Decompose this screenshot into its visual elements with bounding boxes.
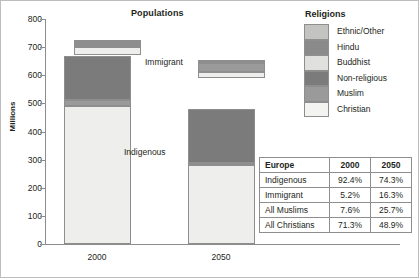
legend-swatch-icon [304,102,329,118]
table-row: Indigenous92.4%74.3% [260,173,412,188]
y-tick-label: 200 [16,184,42,192]
legend-swatch-icon [304,86,329,102]
legend-item-label: Non-religious [337,73,387,83]
legend-swatch-icon [304,24,329,40]
y-tick-label: 100 [16,212,42,220]
legend-swatch-icon [304,71,329,87]
bar-segment-buddhist [74,45,141,47]
bar-segment-non-religious [64,56,131,100]
table-cell-label: All Muslims [260,203,330,218]
y-tick-mark [40,188,45,189]
y-tick-label: 300 [16,156,42,164]
legend-items: Ethnic/OtherHinduBuddhistNon-religiousMu… [304,24,346,117]
bar-segment-non-religious [188,109,255,163]
x-tick-label: 2050 [191,252,251,262]
legend-item-muslim[interactable]: Muslim [304,86,346,102]
legend-item-ethnic-other[interactable]: Ethnic/Other [304,24,346,40]
bar-segment-ethnic-other [74,40,141,42]
page-title: Populations [131,8,184,18]
y-tick-mark [40,132,45,133]
annotation-indigenous: Indigenous [124,147,166,157]
bar-segment-muslim [188,163,255,165]
table-cell-2000: 5.2% [330,188,371,203]
y-tick-mark [40,244,45,245]
table-header-2050: 2050 [371,158,412,173]
table-row: All Muslims7.6%25.7% [260,203,412,218]
legend-item-label: Hindu [337,42,359,52]
y-tick-label: 600 [16,71,42,79]
table-cell-2050: 25.7% [371,203,412,218]
table-cell-label: Immigrant [260,188,330,203]
y-tick-mark [40,47,45,48]
table-cell-2000: 71.3% [330,218,371,233]
bar-segment-christian [198,72,265,78]
y-tick-mark [40,216,45,217]
y-tick-label: 800 [16,15,42,23]
legend-item-hindu[interactable]: Hindu [304,40,346,56]
annotation-immigrant: Immigrant [145,57,183,67]
legend-item-label: Muslim [337,88,364,98]
table-cell-label: All Christians [260,218,330,233]
y-tick-label: 400 [16,128,42,136]
x-tick-label: 2000 [67,252,127,262]
table-header-row: Europe 2000 2050 [260,158,412,173]
bar-segment-muslim [198,63,265,72]
table-body: Indigenous92.4%74.3%Immigrant5.2%16.3%Al… [260,173,412,233]
y-tick-mark [40,19,45,20]
y-axis-ticks: 8007006005004003002001000 [16,0,42,278]
legend-swatch-icon [304,55,329,71]
legend-item-non-religious[interactable]: Non-religious [304,71,346,87]
x-axis-line [45,244,400,245]
data-table: Europe 2000 2050 Indigenous92.4%74.3%Imm… [259,157,412,233]
legend-item-label: Christian [337,104,371,114]
y-tick-mark [40,75,45,76]
bar-segment-christian [74,47,141,55]
legend: Religions Ethnic/OtherHinduBuddhistNon-r… [304,9,346,117]
table-header-europe: Europe [260,158,330,173]
bar-segment-christian [64,106,131,244]
table-cell-label: Indigenous [260,173,330,188]
y-tick-label: 700 [16,43,42,51]
table-cell-2000: 7.6% [330,203,371,218]
table-header: Europe 2000 2050 [260,158,412,173]
legend-swatch-icon [304,40,329,56]
table-cell-2000: 92.4% [330,173,371,188]
table-row: Immigrant5.2%16.3% [260,188,412,203]
y-tick-label: 500 [16,99,42,107]
y-tick-mark [40,103,45,104]
table-cell-2050: 16.3% [371,188,412,203]
table-header-2000: 2000 [330,158,371,173]
y-tick-mark [40,160,45,161]
bar-segment-christian [188,165,255,244]
table-row: All Christians71.3%48.9% [260,218,412,233]
bar-segment-muslim [64,100,131,106]
y-axis-line [45,19,46,245]
legend-title: Religions [304,9,346,19]
legend-item-label: Ethnic/Other [337,26,384,36]
legend-item-label: Buddhist [337,57,370,67]
legend-item-buddhist[interactable]: Buddhist [304,55,346,71]
table-cell-2050: 48.9% [371,218,412,233]
legend-item-christian[interactable]: Christian [304,102,346,118]
y-tick-label: 0 [16,240,42,248]
bar-segment-muslim [74,43,141,46]
table-cell-2050: 74.3% [371,173,412,188]
bar-segment-ethnic-other [198,60,265,62]
